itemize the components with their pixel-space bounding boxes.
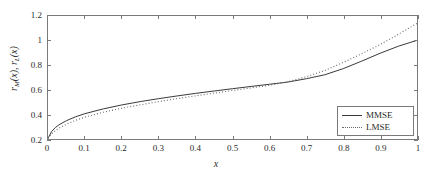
figure-chart: 00.10.20.30.40.50.60.70.80.91 0.20.40.60…	[0, 0, 432, 177]
x-tick-label: 0.9	[366, 144, 396, 153]
chart-legend: MMSELMSE	[337, 106, 414, 136]
y-tick-left	[47, 65, 51, 66]
x-tick-top	[418, 15, 419, 19]
x-tick-label: 0.3	[143, 144, 173, 153]
x-tick-bottom	[158, 136, 159, 140]
x-tick-top	[233, 15, 234, 19]
y-axis-label: rM(x), rL(x)	[8, 9, 21, 129]
y-tick-left	[47, 40, 51, 41]
legend-label: MMSE	[363, 110, 393, 120]
x-tick-bottom	[418, 136, 419, 140]
x-tick-label: 0.4	[180, 144, 210, 153]
x-tick-bottom	[233, 136, 234, 140]
x-tick-label: 0.6	[255, 144, 285, 153]
y-label-r1: r	[8, 87, 19, 91]
x-axis-label: x	[0, 158, 432, 169]
x-tick-bottom	[344, 136, 345, 140]
y-tick-right	[414, 90, 418, 91]
x-tick-label: 0	[32, 144, 62, 153]
x-tick-top	[121, 15, 122, 19]
y-tick-right	[414, 115, 418, 116]
x-tick-bottom	[270, 136, 271, 140]
y-tick-right	[414, 140, 418, 141]
y-label-sub1: M	[13, 81, 21, 87]
x-tick-label: 0.1	[69, 144, 99, 153]
y-tick-right	[414, 15, 418, 16]
x-tick-bottom	[307, 136, 308, 140]
x-tick-bottom	[121, 136, 122, 140]
x-tick-top	[84, 15, 85, 19]
x-tick-label: 0.7	[292, 144, 322, 153]
x-tick-bottom	[195, 136, 196, 140]
x-tick-top	[344, 15, 345, 19]
x-tick-bottom	[381, 136, 382, 140]
x-tick-label: 0.2	[106, 144, 136, 153]
x-tick-top	[381, 15, 382, 19]
legend-item: LMSE	[341, 121, 410, 133]
x-tick-label: 1	[403, 144, 432, 153]
legend-line-swatch	[341, 122, 363, 132]
legend-item: MMSE	[341, 109, 410, 121]
x-tick-top	[270, 15, 271, 19]
x-tick-label: 0.5	[218, 144, 248, 153]
y-tick-label: 0.2	[14, 136, 42, 145]
x-tick-top	[307, 15, 308, 19]
y-tick-left	[47, 15, 51, 16]
y-label-mid: (x), r	[8, 61, 19, 81]
x-tick-bottom	[84, 136, 85, 140]
y-tick-right	[414, 40, 418, 41]
legend-label: LMSE	[363, 122, 390, 132]
x-tick-top	[158, 15, 159, 19]
y-tick-right	[414, 65, 418, 66]
legend-line-swatch	[341, 110, 363, 120]
y-tick-left	[47, 140, 51, 141]
x-tick-top	[195, 15, 196, 19]
y-label-r2: (x)	[8, 46, 19, 57]
y-tick-left	[47, 115, 51, 116]
x-tick-label: 0.8	[329, 144, 359, 153]
y-tick-left	[47, 90, 51, 91]
y-label-sub2: L	[13, 57, 21, 61]
